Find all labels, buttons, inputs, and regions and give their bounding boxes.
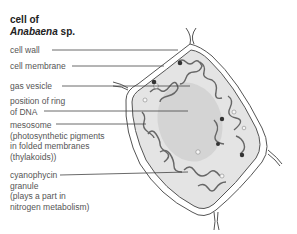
- cell-illustration: [0, 0, 297, 234]
